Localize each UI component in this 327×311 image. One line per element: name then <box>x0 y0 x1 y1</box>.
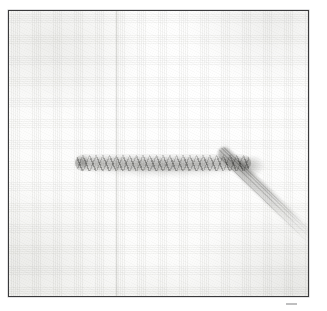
loose-thread-tail <box>237 163 309 267</box>
stray-mark <box>286 303 297 305</box>
stitch-band-left-end <box>69 155 87 171</box>
plate-border <box>8 10 309 297</box>
figure-root: chain-stitch embroidery sample worked on… <box>0 0 327 311</box>
